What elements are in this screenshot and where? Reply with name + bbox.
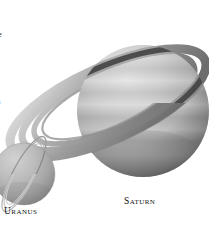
bleed-text-line-1: e [0, 30, 2, 39]
caption-uranus: Uranus [4, 206, 37, 216]
planets-illustration [0, 0, 209, 231]
illustration-page: e s, e us s. Saturn Uranus [0, 0, 209, 231]
caption-saturn: Saturn [124, 196, 155, 206]
